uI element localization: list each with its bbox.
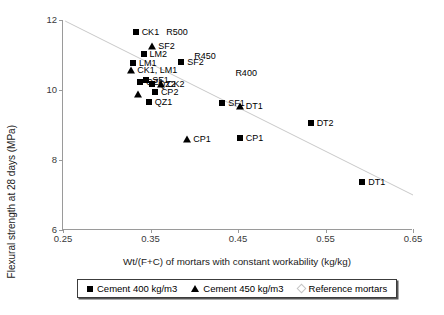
x-tick-label: 0.45: [229, 234, 248, 244]
y-tick-label: 8: [52, 155, 57, 165]
legend-item-label: Cement 450 kg/m3: [203, 283, 283, 294]
trend-line: [63, 20, 413, 230]
data-point-marker: [127, 66, 135, 73]
data-point-marker: [178, 59, 184, 65]
legend-item-label: Cement 400 kg/m3: [97, 283, 177, 294]
data-point-label: CP1: [193, 135, 211, 144]
x-tick-label: 0.65: [404, 234, 423, 244]
data-point-marker: [137, 79, 143, 85]
legend-item-0[interactable]: Cement 400 kg/m3: [87, 283, 177, 294]
trend-annotation: R400: [235, 69, 257, 78]
x-axis-title: Wt/(F+C) of mortars with constant workab…: [62, 256, 412, 267]
open-diamond-icon: [296, 284, 306, 294]
trend-annotation: R500: [166, 28, 188, 37]
data-point-marker: [359, 179, 365, 185]
data-point-marker: [148, 42, 156, 49]
data-point-marker: [237, 135, 243, 141]
x-tick-label: 0.25: [54, 234, 73, 244]
chart-figure: Flexural strength at 28 days (MPa) 68101…: [0, 0, 444, 315]
chart-legend: Cement 400 kg/m3Cement 450 kg/m3Referenc…: [77, 279, 397, 298]
data-point-marker: [219, 100, 225, 106]
data-point-marker: [141, 51, 147, 57]
y-tick-label: 10: [46, 85, 57, 95]
y-tick-mark: [59, 90, 63, 91]
x-tick-label: 0.55: [316, 234, 335, 244]
data-point-label: CK2: [167, 80, 185, 89]
data-point-marker: [152, 89, 158, 95]
data-point-marker: [183, 136, 191, 143]
trend-annotation: R450: [194, 52, 216, 61]
data-point-marker: [149, 81, 155, 87]
data-point-label: DT1: [246, 102, 263, 111]
y-tick-label: 12: [46, 15, 57, 25]
data-point-label: SF2: [158, 42, 175, 51]
y-tick-mark: [59, 160, 63, 161]
data-point-label: CK1, LM1: [137, 66, 177, 75]
data-point-label: DT1: [368, 178, 385, 187]
x-tick-label: 0.35: [141, 234, 160, 244]
legend-item-2[interactable]: Reference mortars: [298, 283, 388, 294]
data-point-marker: [146, 99, 152, 105]
data-point-marker: [143, 77, 149, 83]
data-point-label: CP2: [161, 88, 179, 97]
filled-square-icon: [87, 286, 93, 292]
data-point-marker: [133, 29, 139, 35]
data-point-marker: [134, 91, 142, 98]
data-point-marker: [236, 102, 244, 109]
data-point-label: CK1: [142, 28, 160, 37]
data-point-marker: [157, 80, 165, 87]
legend-item-1[interactable]: Cement 450 kg/m3: [191, 283, 283, 294]
data-point-label: CP1: [246, 134, 264, 143]
filled-triangle-icon: [191, 285, 199, 292]
plot-area: 681012 0.250.350.450.550.65 CK1LM2LM1SF2…: [62, 20, 412, 230]
data-point-marker: [130, 60, 136, 66]
data-point-label: DT2: [317, 119, 334, 128]
data-point-label: QZ1: [155, 98, 173, 107]
legend-item-label: Reference mortars: [309, 283, 388, 294]
y-axis-title: Flexural strength at 28 days (MPa): [6, 125, 17, 278]
y-tick-mark: [59, 20, 63, 21]
data-point-marker: [308, 120, 314, 126]
